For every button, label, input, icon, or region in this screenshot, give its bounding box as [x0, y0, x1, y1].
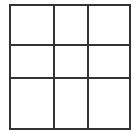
grid-vertical-line	[9, 4, 11, 130]
grid-cell-r1-c1[interactable]	[10, 5, 54, 45]
grid-horizontal-line	[9, 77, 131, 79]
tic-tac-toe-grid	[0, 0, 139, 137]
grid-cell-r1-c3[interactable]	[88, 5, 130, 45]
grid-cell-r2-c1[interactable]	[10, 45, 54, 78]
grid-vertical-line	[87, 4, 89, 130]
grid-cell-r3-c1[interactable]	[10, 78, 54, 129]
grid-vertical-line	[129, 4, 131, 130]
grid-cell-r3-c3[interactable]	[88, 78, 130, 129]
grid-cell-r2-c2[interactable]	[54, 45, 88, 78]
grid-cell-r3-c2[interactable]	[54, 78, 88, 129]
grid-horizontal-line	[9, 128, 131, 130]
grid-vertical-line	[53, 4, 55, 130]
grid-cell-r1-c2[interactable]	[54, 5, 88, 45]
grid-cell-r2-c3[interactable]	[88, 45, 130, 78]
grid-horizontal-line	[9, 44, 131, 46]
grid-horizontal-line	[9, 4, 131, 6]
